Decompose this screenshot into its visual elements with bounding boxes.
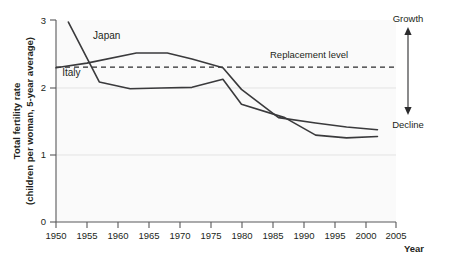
replacement-level-label: Replacement level — [270, 49, 348, 60]
series-label-italy: Italy — [62, 67, 80, 78]
growth-decline-annotation: Growth Decline — [392, 13, 424, 130]
y-tick-label-3: 3 — [41, 15, 46, 26]
series-label-japan: Japan — [93, 30, 120, 41]
growth-label: Growth — [393, 13, 424, 24]
y-axis-title: Total fertility rate (children per woman… — [11, 37, 35, 205]
decline-label: Decline — [392, 119, 424, 130]
x-tick-label-1995: 1995 — [324, 230, 345, 241]
x-tick-label-1955: 1955 — [76, 230, 97, 241]
y-axis-title-line2: (children per woman, 5-year average) — [24, 37, 35, 205]
y-tick-label-1: 1 — [41, 149, 46, 160]
arrow-down-icon — [404, 107, 411, 115]
x-tick-label-1980: 1980 — [231, 230, 252, 241]
x-tick-label-1985: 1985 — [262, 230, 283, 241]
x-tick-label-1975: 1975 — [200, 230, 221, 241]
y-axis-title-line1: Total fertility rate — [11, 83, 22, 159]
y-tick-label-0: 0 — [41, 216, 46, 227]
x-tick-label-1960: 1960 — [107, 230, 128, 241]
fertility-rate-chart: 0 1 2 3 Total fertility rate (children p… — [0, 0, 450, 255]
x-tick-label-2000: 2000 — [355, 230, 376, 241]
x-tick-label-2005: 2005 — [385, 230, 406, 241]
x-tick-label-1950: 1950 — [45, 230, 66, 241]
x-tick-label-1990: 1990 — [293, 230, 314, 241]
chart-svg: 0 1 2 3 Total fertility rate (children p… — [0, 0, 450, 255]
x-axis-title: Year — [404, 243, 424, 254]
y-axis: 0 1 2 3 — [41, 15, 56, 227]
x-tick-label-1965: 1965 — [138, 230, 159, 241]
x-axis: 1950 1955 1960 1965 1970 1975 1980 1985 … — [45, 222, 424, 254]
y-tick-label-2: 2 — [41, 82, 46, 93]
arrow-up-icon — [404, 27, 411, 35]
x-tick-label-1970: 1970 — [169, 230, 190, 241]
